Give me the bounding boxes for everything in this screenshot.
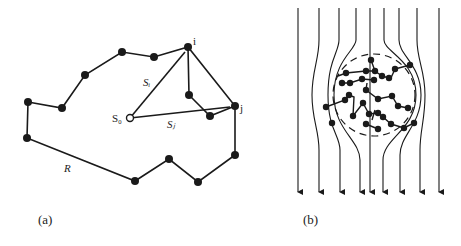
caption-a: (a) xyxy=(38,212,52,227)
vector-sj xyxy=(130,107,230,118)
chain-segment-i-j xyxy=(188,47,235,116)
bead-i xyxy=(184,43,192,51)
label-i: i xyxy=(193,35,196,47)
label-sj: Sⱼ xyxy=(167,118,176,130)
label-s0: S₀ xyxy=(112,112,122,124)
origin-s0 xyxy=(127,115,134,122)
label-j: j xyxy=(239,102,243,114)
vector-si xyxy=(130,52,185,118)
figure-canvas: i j S₀ Sᵢ Sⱼ R (a) xyxy=(0,0,461,246)
label-si: Sᵢ xyxy=(143,76,151,88)
bead-j xyxy=(231,102,239,110)
panel-b-streamlines xyxy=(298,8,439,192)
caption-b: (b) xyxy=(303,212,318,227)
label-r: R xyxy=(63,162,71,174)
